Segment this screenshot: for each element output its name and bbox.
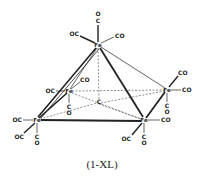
front-left-down-o: O	[34, 139, 39, 146]
front-right-down-o: O	[141, 139, 146, 146]
fe-front-right: Fe	[140, 117, 148, 123]
apex-top-o: O	[95, 10, 100, 17]
back-right-up-co: CO	[178, 69, 188, 76]
fe-back-left: Fe	[65, 88, 73, 94]
back-right-right-co: CO	[182, 86, 192, 93]
front-left-diag-co: OC	[14, 133, 24, 140]
apex-right-co: CO	[115, 32, 125, 39]
fe-back-right: Fe	[163, 87, 171, 93]
back-left-left-co: OC	[45, 87, 55, 94]
cluster-bonds	[38, 47, 165, 121]
carbonyl-bonds	[23, 25, 181, 135]
fe5c-carbonyl-cluster-diagram: Fe Fe Fe Fe Fe C O C OC CO OC CO C O CO …	[0, 0, 204, 177]
carbonyl-labels: O C OC CO OC CO C O CO CO C O OC OC C O …	[12, 10, 191, 146]
back-left-down-o: O	[66, 109, 71, 116]
back-right-down-o: O	[164, 108, 169, 115]
fe-front-left: Fe	[33, 117, 41, 123]
dashed-bonds	[40, 48, 164, 119]
front-right-right-co: CO	[161, 116, 171, 123]
front-right-diag-co: OC	[121, 135, 131, 142]
apex-top-c: C	[96, 17, 101, 24]
fe-apex: Fe	[94, 42, 102, 48]
carbide-carbon: C	[97, 98, 102, 105]
figure-caption: (1-XL)	[0, 158, 204, 170]
front-left-left-co: OC	[12, 116, 22, 123]
back-left-up-co: CO	[80, 76, 90, 83]
apex-left-co: OC	[69, 30, 79, 37]
